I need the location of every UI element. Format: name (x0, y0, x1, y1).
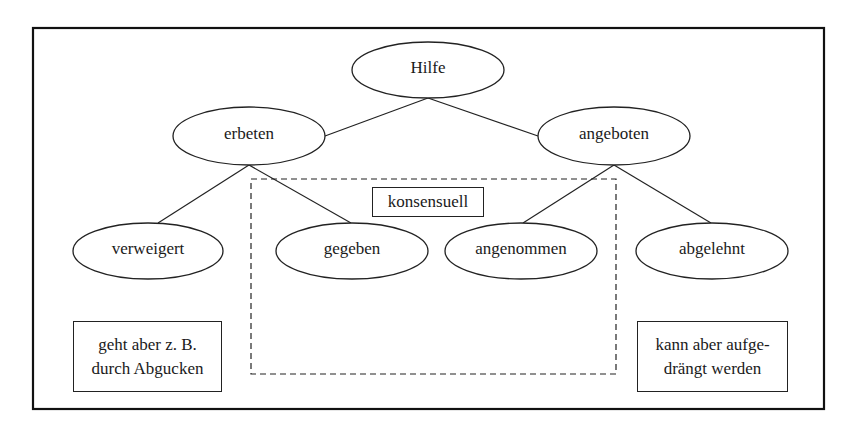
note-verweigert: geht aber z. B. durch Abgucken (73, 321, 222, 392)
edge-angeboten-abgelehnt (614, 165, 711, 223)
note-abgelehnt-line1: kann aber aufge- (655, 333, 769, 357)
node-label-angeboten: angeboten (579, 124, 649, 144)
note-verweigert-line2: durch Abgucken (92, 357, 204, 381)
note-verweigert-line1: geht aber z. B. (92, 333, 204, 357)
note-abgelehnt: kann aber aufge- drängt werden (637, 321, 788, 392)
node-label-verweigert: verweigert (112, 239, 185, 259)
note-abgelehnt-line2: drängt werden (655, 357, 769, 381)
edge-hilfe-erbeten (325, 98, 428, 136)
edge-hilfe-angeboten (428, 98, 538, 136)
node-label-angenommen: angenommen (475, 239, 567, 259)
node-label-gegeben: gegeben (324, 239, 381, 259)
consensual-group-label: konsensuell (372, 187, 484, 217)
node-label-hilfe: Hilfe (411, 58, 446, 78)
edge-angeboten-angenommen (523, 165, 614, 223)
edge-erbeten-gegeben (249, 165, 351, 223)
edge-erbeten-verweigert (158, 165, 249, 223)
node-label-abgelehnt: abgelehnt (679, 239, 745, 259)
node-label-erbeten: erbeten (224, 124, 274, 144)
